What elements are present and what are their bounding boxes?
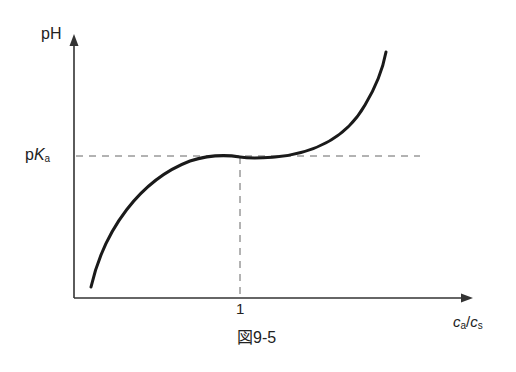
x-axis-label-sub2: s	[478, 320, 483, 331]
y-axis-label: pH	[41, 25, 61, 43]
pka-label-k: K	[34, 146, 45, 163]
x-axis-label-c2: c	[470, 313, 478, 330]
x-axis-arrow-icon	[461, 294, 473, 303]
x-tick-1-text: 1	[236, 300, 244, 317]
pka-label-p: p	[25, 146, 34, 163]
pka-label-sub: a	[45, 153, 51, 164]
x-tick-1: 1	[236, 300, 244, 317]
figure-caption-text: 図9-5	[237, 329, 276, 346]
chart-canvas	[0, 0, 516, 372]
pka-label: pKa	[25, 146, 50, 164]
figure-caption: 図9-5	[237, 324, 276, 348]
x-axis-label-c1: c	[453, 313, 461, 330]
y-axis-arrow-icon	[70, 34, 79, 46]
x-axis-label: ca/cs	[453, 313, 483, 331]
y-axis-label-text: pH	[41, 25, 61, 42]
ph-curve	[91, 52, 386, 287]
